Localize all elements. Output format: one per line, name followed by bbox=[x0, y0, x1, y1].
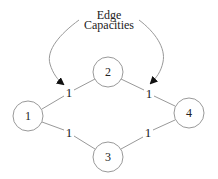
arrow-left-icon bbox=[49, 20, 79, 84]
annotation-line-2: Capacities bbox=[84, 18, 134, 32]
arrow-right-icon bbox=[139, 20, 163, 83]
network-flow-diagram: 1 1 1 1 1 2 3 4 Edge Capacities bbox=[0, 0, 218, 179]
node-label: 4 bbox=[186, 106, 192, 120]
edge-3-4: 1 bbox=[121, 120, 175, 149]
edge-capacity-label: 1 bbox=[146, 86, 153, 101]
node-4: 4 bbox=[174, 98, 204, 128]
node-2: 2 bbox=[93, 57, 123, 87]
edge-1-2: 1 bbox=[42, 79, 95, 109]
edge-1-3: 1 bbox=[42, 122, 95, 149]
edge-capacity-label: 1 bbox=[145, 125, 152, 140]
node-label: 3 bbox=[105, 150, 111, 164]
edge-capacity-label: 1 bbox=[66, 125, 73, 140]
node-label: 2 bbox=[105, 65, 111, 79]
edge-2-4: 1 bbox=[121, 79, 175, 106]
node-1: 1 bbox=[13, 101, 43, 131]
diagram-svg: 1 1 1 1 1 2 3 4 Edge Capacities bbox=[0, 0, 218, 179]
edge-capacity-label: 1 bbox=[66, 85, 73, 100]
node-3: 3 bbox=[93, 142, 123, 172]
node-label: 1 bbox=[25, 109, 31, 123]
